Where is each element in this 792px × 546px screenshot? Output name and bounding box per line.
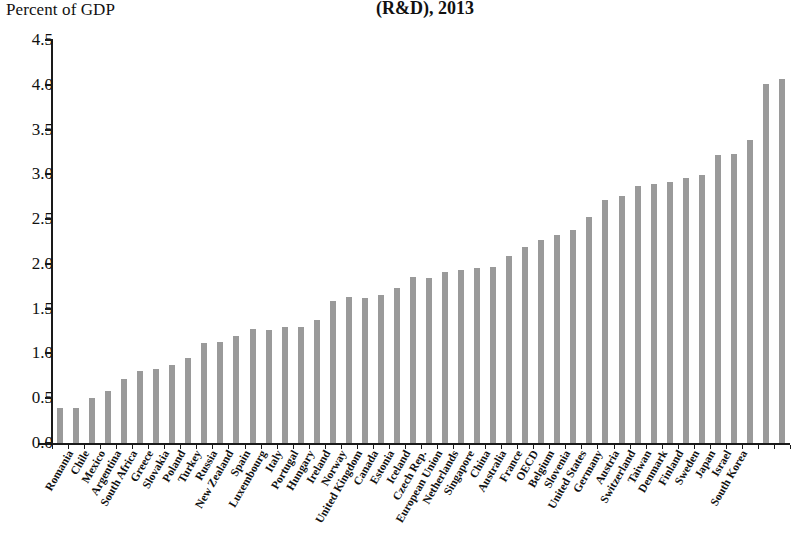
bar[interactable] (426, 278, 432, 443)
bar[interactable] (362, 298, 368, 443)
bar[interactable] (458, 270, 464, 443)
bar-slot (245, 40, 261, 443)
bar[interactable] (635, 186, 641, 443)
bar[interactable] (667, 182, 673, 444)
bar-slot (774, 40, 790, 443)
bar-slot (453, 40, 469, 443)
bar-slot (261, 40, 277, 443)
bar[interactable] (763, 84, 769, 443)
bar[interactable] (185, 358, 191, 443)
bar-slot (341, 40, 357, 443)
bar[interactable] (779, 79, 785, 443)
bar-slot (100, 40, 116, 443)
y-axis-unit-label: Percent of GDP (6, 0, 115, 20)
chart-title: (R&D), 2013 (260, 0, 590, 19)
bar[interactable] (298, 327, 304, 443)
bar[interactable] (266, 330, 272, 443)
bar[interactable] (602, 200, 608, 443)
bar[interactable] (378, 295, 384, 443)
bar[interactable] (554, 235, 560, 443)
bar[interactable] (490, 267, 496, 443)
bar-slot (212, 40, 228, 443)
bar-slot (694, 40, 710, 443)
bar-slot (132, 40, 148, 443)
bar-slot (501, 40, 517, 443)
bar-slot (373, 40, 389, 443)
bar-slot (196, 40, 212, 443)
bar[interactable] (474, 268, 480, 443)
bar[interactable] (89, 398, 95, 443)
bar-slot (710, 40, 726, 443)
bar-slot (726, 40, 742, 443)
bar[interactable] (731, 154, 737, 443)
bar-slot (389, 40, 405, 443)
bar-slot (597, 40, 613, 443)
bar-slot (614, 40, 630, 443)
rd-spending-bar-chart: Percent of GDP (R&D), 2013 0.00.51.01.52… (0, 0, 792, 546)
bar[interactable] (169, 365, 175, 443)
bar-slot (148, 40, 164, 443)
bar-slot (164, 40, 180, 443)
bar-slot (421, 40, 437, 443)
bar[interactable] (250, 329, 256, 443)
bar-slot (116, 40, 132, 443)
bar[interactable] (506, 256, 512, 443)
bar[interactable] (442, 272, 448, 443)
bar-slot (68, 40, 84, 443)
bar[interactable] (747, 140, 753, 443)
bar-slot (293, 40, 309, 443)
bar[interactable] (683, 178, 689, 443)
bar[interactable] (201, 343, 207, 443)
bar-slot (405, 40, 421, 443)
bar-slot (533, 40, 549, 443)
bars-layer (52, 40, 790, 443)
bar-slot (437, 40, 453, 443)
bar[interactable] (217, 342, 223, 443)
bar[interactable] (619, 196, 625, 443)
bar-slot (469, 40, 485, 443)
bar-slot (581, 40, 597, 443)
bar[interactable] (282, 327, 288, 443)
bar[interactable] (233, 336, 239, 443)
bar[interactable] (538, 240, 544, 443)
bar[interactable] (715, 155, 721, 443)
bar-slot (678, 40, 694, 443)
bar[interactable] (570, 230, 576, 443)
bar-slot (549, 40, 565, 443)
bar-slot (84, 40, 100, 443)
bar-slot (517, 40, 533, 443)
x-axis-tick-mark (790, 445, 791, 449)
bar-slot (228, 40, 244, 443)
bar[interactable] (73, 408, 79, 443)
bar-slot (662, 40, 678, 443)
bar[interactable] (57, 408, 63, 443)
bar[interactable] (651, 184, 657, 443)
bar-slot (742, 40, 758, 443)
bar-slot (277, 40, 293, 443)
bar[interactable] (522, 247, 528, 443)
bar[interactable] (699, 175, 705, 443)
bar-slot (325, 40, 341, 443)
bar-slot (357, 40, 373, 443)
bar[interactable] (314, 320, 320, 443)
bar-slot (52, 40, 68, 443)
bar-slot (309, 40, 325, 443)
bar-slot (630, 40, 646, 443)
bar[interactable] (410, 277, 416, 443)
bar[interactable] (105, 391, 111, 443)
bar[interactable] (586, 217, 592, 443)
bar[interactable] (346, 297, 352, 443)
bar-slot (485, 40, 501, 443)
bar[interactable] (137, 371, 143, 443)
bar[interactable] (153, 369, 159, 443)
bar[interactable] (330, 301, 336, 443)
bar[interactable] (394, 288, 400, 443)
bar-slot (758, 40, 774, 443)
bar-slot (565, 40, 581, 443)
x-axis-labels: RomaniaChileMexicoArgentinaSouth AfricaG… (52, 448, 790, 546)
bar-slot (180, 40, 196, 443)
bar[interactable] (121, 379, 127, 443)
bar-slot (646, 40, 662, 443)
